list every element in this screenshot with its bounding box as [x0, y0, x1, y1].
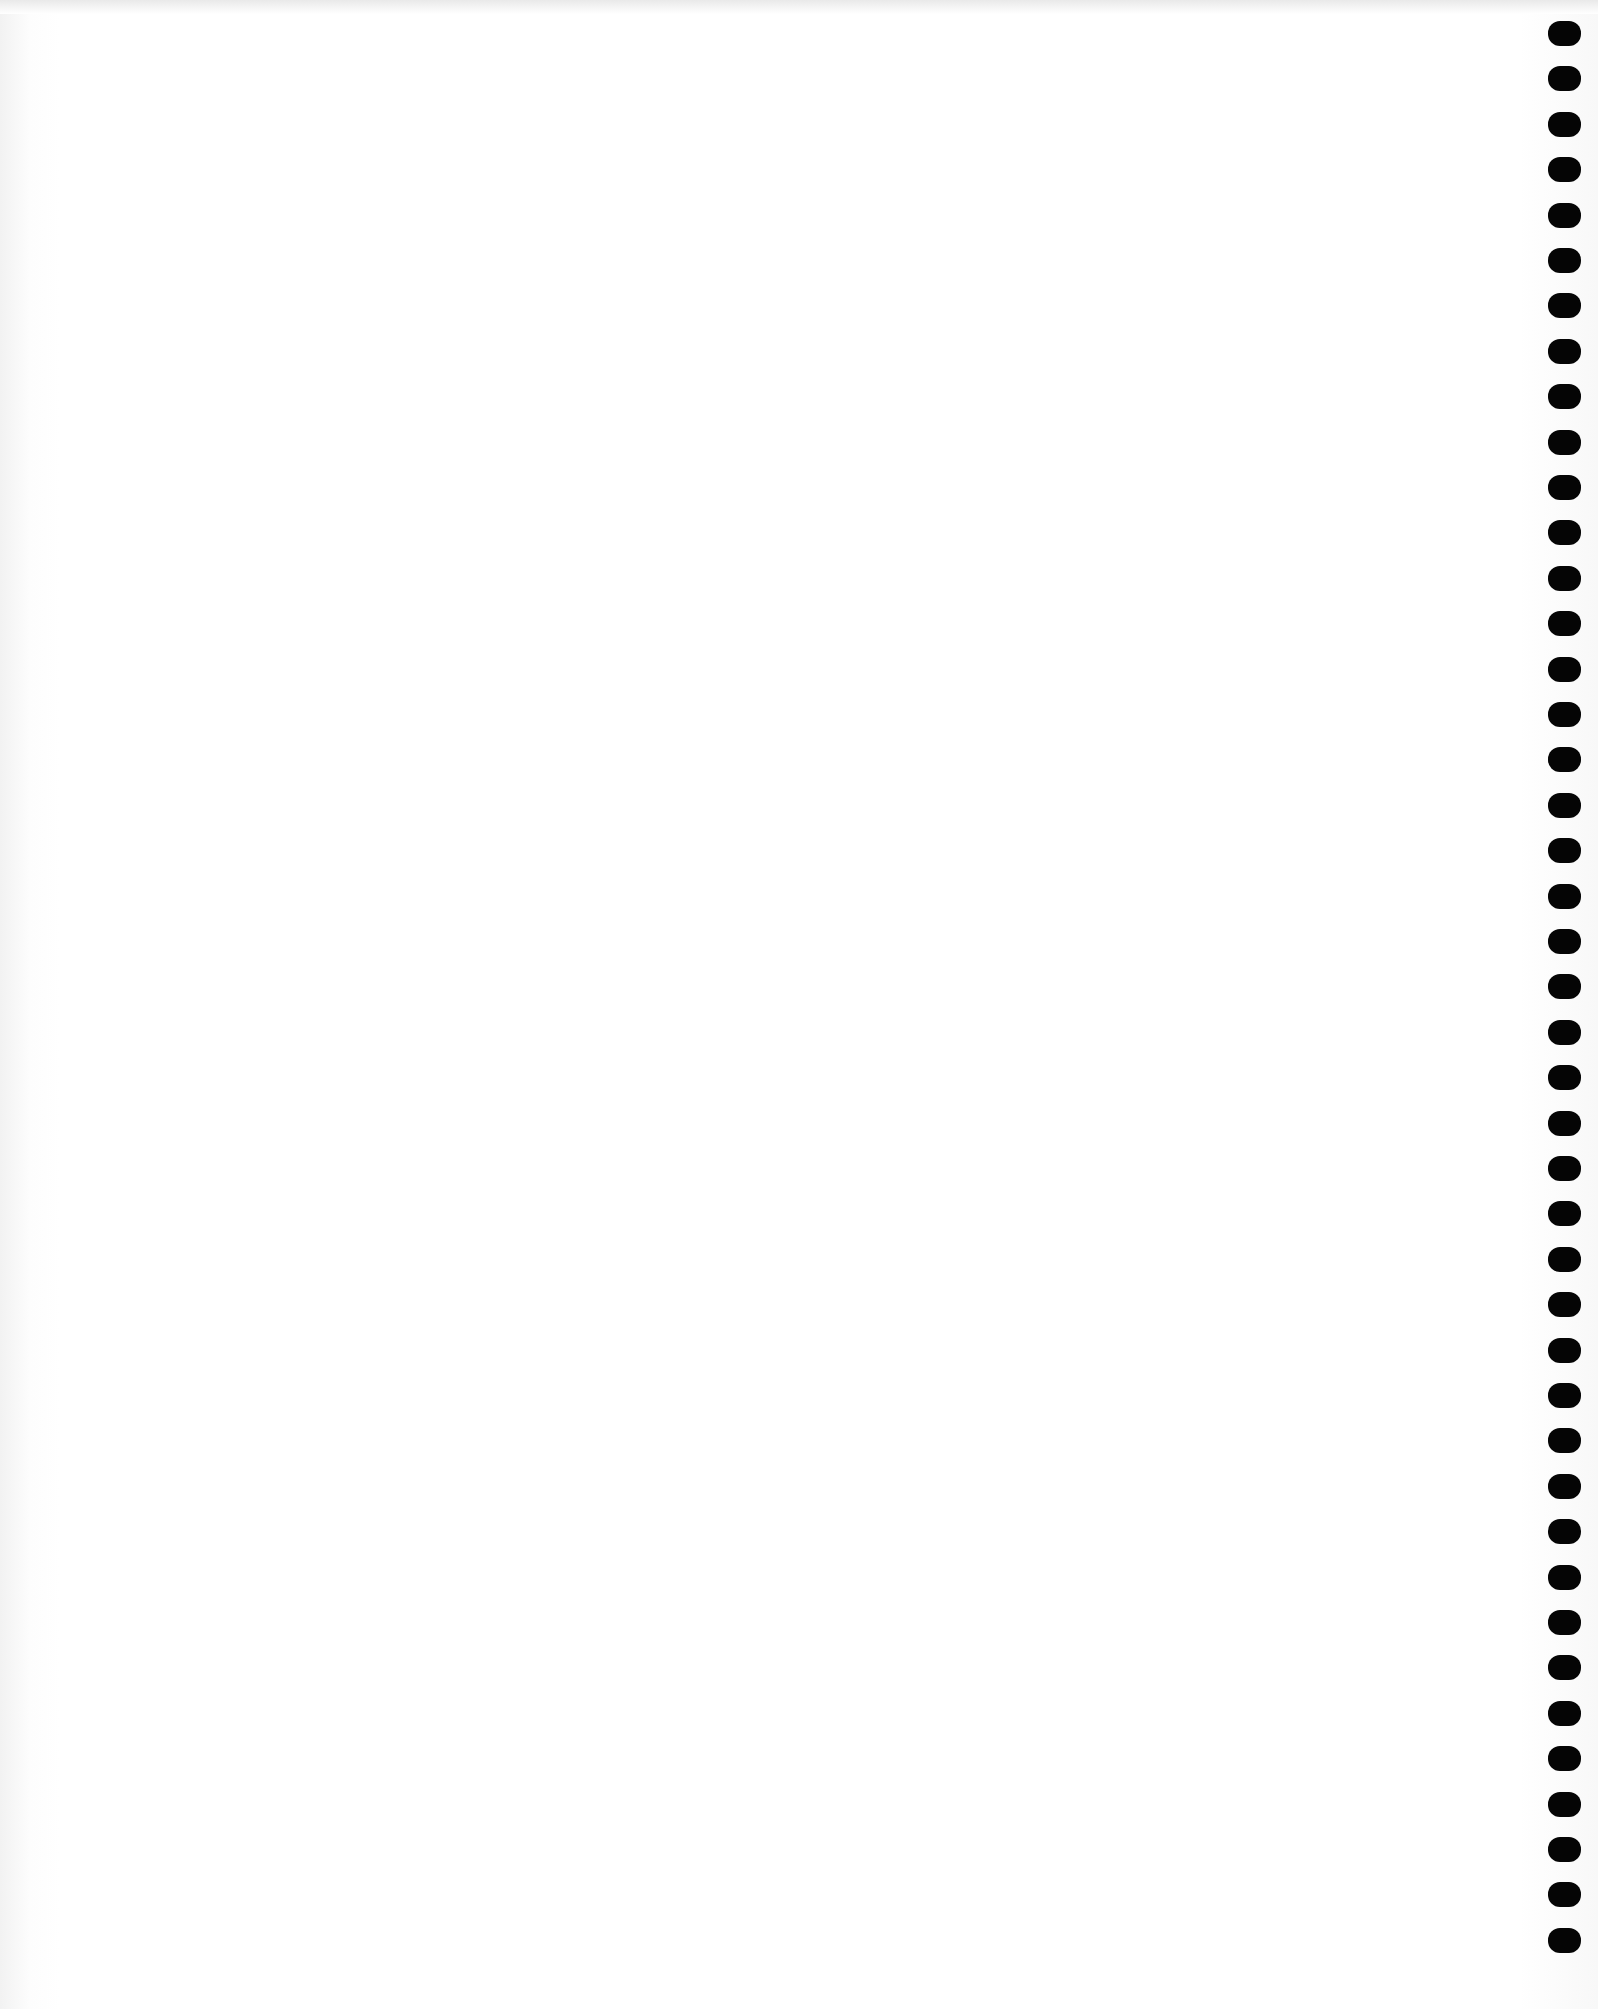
- binding-hole: [1548, 1565, 1581, 1590]
- binding-hole: [1548, 1837, 1581, 1862]
- spiral-binding-holes: [1548, 0, 1582, 2009]
- binding-hole: [1548, 1655, 1581, 1680]
- binding-hole: [1548, 21, 1581, 46]
- binding-hole: [1548, 566, 1581, 591]
- binding-hole: [1548, 1247, 1581, 1272]
- binding-hole: [1548, 339, 1581, 364]
- binding-hole: [1548, 475, 1581, 500]
- binding-hole: [1548, 611, 1581, 636]
- page-top-edge: [0, 0, 1598, 14]
- binding-hole: [1548, 1201, 1581, 1226]
- binding-hole: [1548, 1474, 1581, 1499]
- binding-hole: [1548, 520, 1581, 545]
- binding-hole: [1548, 793, 1581, 818]
- binding-hole: [1548, 974, 1581, 999]
- binding-hole: [1548, 248, 1581, 273]
- binding-hole: [1548, 747, 1581, 772]
- binding-hole: [1548, 1065, 1581, 1090]
- binding-hole: [1548, 1156, 1581, 1181]
- binding-hole: [1548, 1292, 1581, 1317]
- binding-hole: [1548, 657, 1581, 682]
- binding-hole: [1548, 1928, 1581, 1953]
- binding-hole: [1548, 66, 1581, 91]
- binding-hole: [1548, 1746, 1581, 1771]
- blank-page: [0, 0, 1598, 2009]
- binding-hole: [1548, 203, 1581, 228]
- binding-hole: [1548, 1111, 1581, 1136]
- binding-hole: [1548, 702, 1581, 727]
- binding-hole: [1548, 293, 1581, 318]
- binding-hole: [1548, 1519, 1581, 1544]
- binding-hole: [1548, 1428, 1581, 1453]
- binding-hole: [1548, 1792, 1581, 1817]
- binding-hole: [1548, 1383, 1581, 1408]
- binding-hole: [1548, 838, 1581, 863]
- binding-hole: [1548, 1020, 1581, 1045]
- binding-hole: [1548, 884, 1581, 909]
- binding-hole: [1548, 929, 1581, 954]
- binding-hole: [1548, 384, 1581, 409]
- binding-hole: [1548, 1338, 1581, 1363]
- binding-hole: [1548, 112, 1581, 137]
- binding-hole: [1548, 430, 1581, 455]
- binding-hole: [1548, 1882, 1581, 1907]
- binding-hole: [1548, 1701, 1581, 1726]
- binding-hole: [1548, 1610, 1581, 1635]
- binding-hole: [1548, 157, 1581, 182]
